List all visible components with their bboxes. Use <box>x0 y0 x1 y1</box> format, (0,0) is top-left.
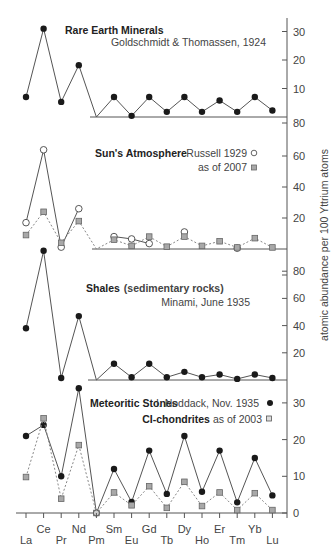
sun-data-point <box>128 236 135 243</box>
data-series <box>23 25 276 516</box>
shales-data-point <box>164 374 170 380</box>
legend-open-circle-icon <box>251 150 257 156</box>
shales-data-point <box>111 360 117 366</box>
sun-data-point <box>217 238 223 244</box>
shales-data-point <box>252 371 258 377</box>
sun-tick-label: 20 <box>293 212 305 224</box>
meteoritic-source: I. Noddack, Nov. 1935 <box>156 397 259 409</box>
x-label-gd: Gd <box>142 523 157 535</box>
minerals-data-point <box>252 94 258 100</box>
chart-canvas: 10203020406020406080010203080 Rare Earth… <box>0 0 335 558</box>
minerals-data-point <box>76 62 82 68</box>
minerals-data-point <box>199 109 205 115</box>
x-label-nd: Nd <box>72 523 86 535</box>
minerals-data-point <box>23 94 29 100</box>
meteoritic-data-point <box>41 416 47 422</box>
x-label-ho: Ho <box>195 534 209 546</box>
meteoritic-data-point <box>146 447 152 453</box>
legend-filled-circle-icon <box>267 400 273 406</box>
meteoritic-data-point <box>217 490 223 496</box>
meteoritic-data-point <box>199 503 205 509</box>
minerals-data-point <box>111 94 117 100</box>
y-axis-title: atomic abundance per 100 Yttrium atoms <box>318 149 330 341</box>
shales-data-point <box>234 376 240 382</box>
meteoritic-data-point <box>146 483 152 489</box>
sun-data-point <box>129 243 135 249</box>
minerals-title: Rare Earth Minerals <box>65 24 164 36</box>
meteoritic-data-point <box>269 492 275 498</box>
x-label-yb: Yb <box>248 523 261 535</box>
meteoritic-data-point <box>216 447 222 453</box>
sun-data-point <box>199 243 205 249</box>
minerals-data-point <box>181 94 187 100</box>
meteoritic-data-point <box>58 473 64 479</box>
meteoritic-data-point <box>111 466 117 472</box>
x-label-pr: Pr <box>56 534 67 546</box>
x-label-er: Er <box>214 523 225 535</box>
x-label-sm: Sm <box>106 523 123 535</box>
shales-data-point <box>58 375 64 381</box>
x-label-tb: Tb <box>160 534 173 546</box>
shales-tick-label: 20 <box>293 347 305 359</box>
sun-data-point <box>146 234 152 240</box>
sun-data-point <box>146 240 153 247</box>
meteoritic-data-point <box>23 474 29 480</box>
minerals-data-point <box>58 99 64 105</box>
meteoritic-tick-label: 10 <box>293 470 305 482</box>
sun-title: Sun's Atmosphere <box>95 147 187 159</box>
minerals-data-point <box>216 97 222 103</box>
tick-label: 80 <box>293 117 305 129</box>
meteoritic-data-point <box>129 502 135 508</box>
sun-legend-russell: Russell 1929 <box>186 147 247 159</box>
shales-data-point <box>199 374 205 380</box>
x-label-la: La <box>20 534 33 546</box>
sun-data-point <box>76 218 82 224</box>
shales-title-rest: (sedimentary rocks) <box>124 282 224 294</box>
legend-gray-square-icon <box>267 416 272 421</box>
meteoritic-data-point <box>199 489 205 495</box>
shales-tick-label: 40 <box>293 320 305 332</box>
x-axis-labels: LaCePrNdPmSmEuGdTbDyHoErTmYbLu <box>20 513 279 546</box>
sun-data-point <box>234 245 240 251</box>
shales-data-point <box>216 371 222 377</box>
minerals-data-point <box>128 113 134 119</box>
shales-data-point <box>181 369 187 375</box>
sun-legend-2007: as of 2007 <box>198 161 247 173</box>
meteoritic-data-point <box>252 455 258 461</box>
meteoritic-tick-label: 30 <box>293 397 305 409</box>
meteoritic-tick-label: 20 <box>293 434 305 446</box>
x-label-tm: Tm <box>229 534 245 546</box>
shales-data-point <box>128 374 134 380</box>
minerals-tick-label: 20 <box>293 54 305 66</box>
meteoritic-data-point <box>76 442 82 448</box>
meteoritic-data-point <box>76 385 82 391</box>
shales-title: Shales(sedimentary rocks) <box>86 282 224 294</box>
legend-gray-square-icon <box>252 165 257 170</box>
meteoritic-data-point <box>181 433 187 439</box>
sun-data-point <box>40 147 47 154</box>
minerals-tick-label: 10 <box>293 83 305 95</box>
meteoritic-data-point <box>58 496 64 502</box>
sun-data-point <box>252 235 258 241</box>
meteoritic-data-point <box>164 491 170 497</box>
x-label-lu: Lu <box>266 534 278 546</box>
shales-data-point <box>146 360 152 366</box>
sun-data-point <box>58 240 64 246</box>
minerals-data-point <box>164 109 170 115</box>
sun-tick-label: 60 <box>293 150 305 162</box>
x-label-dy: Dy <box>178 523 192 535</box>
shales-title-bold: Shales <box>86 282 120 294</box>
x-label-pm: Pm <box>88 534 105 546</box>
minerals-data-point <box>269 107 275 113</box>
meteoritic-data-point <box>23 433 29 439</box>
sun-data-point <box>111 237 117 243</box>
panel-labels: Rare Earth Minerals Goldschmidt & Thomas… <box>65 24 330 425</box>
sun-data-point <box>23 219 30 226</box>
x-label-ce: Ce <box>37 523 51 535</box>
meteoritic-data-point <box>182 479 188 485</box>
shales-tick-label: 80 <box>293 265 305 277</box>
ci-title: CI-chondrites <box>142 413 210 425</box>
minerals-data-point <box>40 25 46 31</box>
sun-data-point <box>23 232 29 238</box>
shales-data-point <box>269 375 275 381</box>
